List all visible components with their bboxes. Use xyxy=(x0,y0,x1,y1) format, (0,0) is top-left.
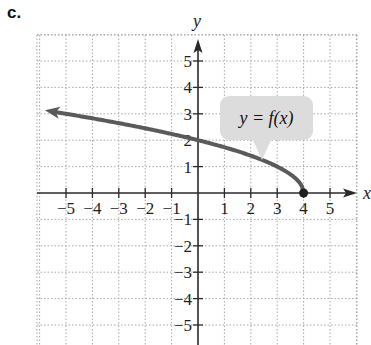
y-tick-label: 2 xyxy=(184,131,193,150)
x-tick-label: −2 xyxy=(136,199,154,218)
y-tick-label: 4 xyxy=(184,78,193,97)
y-tick-label: 1 xyxy=(184,158,193,177)
y-tick-label: −3 xyxy=(174,263,192,282)
x-tick-label: 3 xyxy=(273,199,282,218)
x-tick-label: −4 xyxy=(83,199,102,218)
x-tick-label: −5 xyxy=(57,199,75,218)
callout-text: y = f(x) xyxy=(237,108,293,129)
x-tick-label: 5 xyxy=(326,199,335,218)
y-tick-label: −1 xyxy=(174,210,192,229)
x-tick-label: 2 xyxy=(247,199,256,218)
y-tick-label: −4 xyxy=(174,290,193,309)
chart-plot-area: xy −5−4−3−2−11234512345−1−2−3−4−5 y = f(… xyxy=(0,0,371,345)
curve-endpoint-dot xyxy=(299,189,308,198)
x-tick-label: 4 xyxy=(299,199,308,218)
x-tick-label: 1 xyxy=(220,199,229,218)
y-axis-label: y xyxy=(191,11,201,31)
y-tick-label: −2 xyxy=(174,237,192,256)
x-tick-label: −3 xyxy=(110,199,128,218)
y-tick-label: 5 xyxy=(184,52,193,71)
x-axis-label: x xyxy=(362,183,371,203)
y-tick-label: 3 xyxy=(184,105,193,124)
y-tick-label: −5 xyxy=(174,316,192,335)
